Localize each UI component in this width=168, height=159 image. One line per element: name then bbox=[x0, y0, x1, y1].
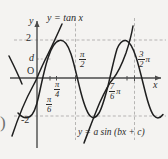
fraction-denominator: 2 bbox=[79, 60, 86, 69]
x-tick-label-pi-over-2: π 2 bbox=[79, 50, 86, 70]
fraction-denominator: 2 bbox=[138, 60, 145, 69]
fraction-7-over-6: 7 6 bbox=[109, 82, 115, 101]
x-tick-label-pi-over-6: π 6 bbox=[46, 95, 52, 114]
y-axis-arrowhead bbox=[34, 21, 39, 27]
x-tick-label-pi-over-4: π 4 bbox=[54, 80, 60, 99]
y-intercept-label-d: d bbox=[29, 53, 34, 63]
tangent-curve-label: y = tan x bbox=[47, 13, 83, 23]
fraction-denominator: 6 bbox=[46, 105, 52, 114]
fraction-pi-over-2: π 2 bbox=[79, 50, 86, 70]
scan-artifact-paren: ) bbox=[0, 113, 6, 133]
fraction-denominator: 4 bbox=[54, 90, 60, 99]
y-tick-label-neg2: -2 bbox=[21, 115, 29, 125]
fraction-denominator: 6 bbox=[109, 92, 115, 101]
tangent-branch-left-stub bbox=[9, 56, 22, 84]
fraction-pi-over-4: π 4 bbox=[54, 80, 60, 99]
x-axis-label: x bbox=[153, 80, 157, 90]
fraction-pi-over-6: π 6 bbox=[46, 95, 52, 114]
pi-suffix: π bbox=[146, 55, 151, 64]
y-axis-label: y bbox=[29, 16, 33, 26]
x-tick-label-3pi-over-2: 3 2 π bbox=[138, 50, 150, 70]
trig-graph-figure: y x O y = tan x y = a sin (bx + c) 2 -2 … bbox=[0, 0, 168, 159]
fraction-3-over-2: 3 2 bbox=[138, 50, 145, 70]
origin-label: O bbox=[27, 66, 34, 76]
pi-suffix: π bbox=[116, 87, 120, 96]
x-tick-label-7pi-over-6: 7 6 π bbox=[109, 82, 121, 101]
sine-curve-label: y = a sin (bx + c) bbox=[78, 128, 145, 138]
y-tick-label-2: 2 bbox=[26, 33, 31, 43]
